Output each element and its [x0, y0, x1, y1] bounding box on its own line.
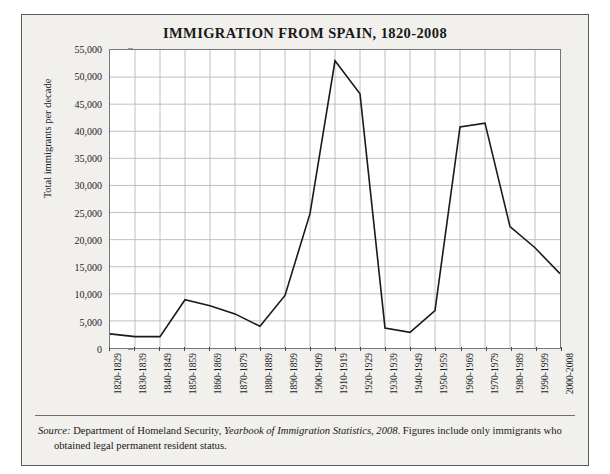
x-tick-mark: [184, 347, 185, 351]
x-tick-mark: [335, 347, 336, 351]
x-tick-mark: [235, 347, 236, 351]
x-tick-label: 1960-1969: [465, 353, 475, 394]
y-tick-label: 10,000: [46, 289, 102, 300]
note-divider: [35, 415, 575, 416]
line-chart-svg: [110, 50, 560, 348]
x-tick-mark: [486, 347, 487, 351]
figure-container: IMMIGRATION FROM SPAIN, 1820-2008 Total …: [21, 14, 589, 466]
x-tick-label: 1940-1949: [414, 353, 424, 394]
y-tick-label: 0: [46, 344, 102, 355]
x-tick-mark: [360, 347, 361, 351]
x-tick-mark: [109, 347, 110, 351]
x-tick-label: 1950-1959: [439, 353, 449, 394]
x-tick-mark: [511, 347, 512, 351]
plot-area: [109, 49, 561, 349]
page-root: IMMIGRATION FROM SPAIN, 1820-2008 Total …: [0, 0, 610, 474]
x-tick-mark: [134, 347, 135, 351]
x-tick-label: 1840-1849: [163, 353, 173, 394]
x-tick-label: 1880-1889: [264, 353, 274, 394]
y-tick-label: 35,000: [46, 153, 102, 164]
x-tick-label: 1970-1979: [490, 353, 500, 394]
x-tick-label: 1900-1909: [314, 353, 324, 394]
chart-area: Total immigrants per decade 55,00050,000…: [22, 49, 588, 409]
x-tick-mark: [260, 347, 261, 351]
x-tick-mark: [285, 347, 286, 351]
y-tick-label: 45,000: [46, 98, 102, 109]
x-tick-mark: [385, 347, 386, 351]
page-top-cut-text: [0, 0, 610, 13]
y-tick-label: 30,000: [46, 180, 102, 191]
source-rest: . Figures include only immigrants who: [398, 425, 562, 436]
y-tick-label: 20,000: [46, 234, 102, 245]
grid-lines: [110, 50, 560, 348]
x-tick-mark: [435, 347, 436, 351]
x-tick-mark: [561, 347, 562, 351]
x-tick-mark: [310, 347, 311, 351]
x-tick-label: 1990-1999: [540, 353, 550, 394]
x-tick-label: 1910-1919: [339, 353, 349, 394]
x-tick-label: 1820-1829: [113, 353, 123, 394]
y-tick-label: 55,000: [46, 44, 102, 55]
y-tick-label: 5,000: [46, 316, 102, 327]
source-publication: Yearbook of Immigration Statistics, 2008: [224, 425, 398, 436]
y-axis-tick-labels: 55,00050,00045,00040,00035,00030,00025,0…: [46, 49, 102, 349]
source-label: Source:: [38, 425, 71, 436]
x-tick-label: 1860-1869: [213, 353, 223, 394]
x-tick-label: 2000-2008: [565, 353, 575, 394]
x-tick-mark: [461, 347, 462, 351]
x-tick-label: 1980-1989: [515, 353, 525, 394]
x-tick-label: 1930-1939: [389, 353, 399, 394]
y-tick-label: 50,000: [46, 71, 102, 82]
x-axis-tick-labels: 1820-18291830-18391840-18491850-18591860…: [109, 351, 561, 409]
x-tick-mark: [209, 347, 210, 351]
x-tick-mark: [536, 347, 537, 351]
x-tick-mark: [159, 347, 160, 351]
x-tick-label: 1850-1859: [188, 353, 198, 394]
y-tick-label: 15,000: [46, 262, 102, 273]
y-tick-label: 40,000: [46, 125, 102, 136]
y-tick-label: 25,000: [46, 207, 102, 218]
chart-title: IMMIGRATION FROM SPAIN, 1820-2008: [22, 25, 588, 42]
source-note: Source: Department of Homeland Security,…: [38, 423, 572, 453]
x-tick-label: 1920-1929: [364, 353, 374, 394]
x-tick-label: 1890-1899: [289, 353, 299, 394]
source-note-line2: obtained legal permanent resident status…: [38, 438, 572, 453]
x-tick-label: 1830-1839: [138, 353, 148, 394]
x-tick-label: 1870-1879: [239, 353, 249, 394]
x-tick-mark: [410, 347, 411, 351]
source-agency: Department of Homeland Security,: [71, 425, 224, 436]
